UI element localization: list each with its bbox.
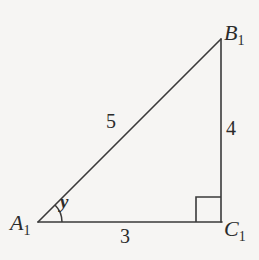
vertex-b-letter: B [224, 20, 237, 45]
vertex-label-c1: C1 [224, 218, 246, 244]
vertex-label-a1: A1 [10, 212, 30, 238]
angle-label-y: y [60, 192, 68, 211]
triangle-figure: A1 B1 C1 5 4 3 y [0, 0, 259, 260]
side-length-hypotenuse: 5 [106, 111, 116, 131]
vertex-a-letter: A [10, 210, 23, 235]
vertex-label-b1: B1 [224, 22, 244, 48]
side-length-base: 3 [120, 226, 130, 246]
vertex-a-subscript: 1 [23, 223, 30, 238]
vertex-b-subscript: 1 [237, 33, 244, 48]
right-angle-marker-icon [196, 197, 221, 222]
triangle-drawing [0, 0, 259, 260]
vertex-c-subscript: 1 [239, 229, 246, 244]
side-length-vertical: 4 [226, 118, 236, 138]
vertex-c-letter: C [224, 216, 239, 241]
